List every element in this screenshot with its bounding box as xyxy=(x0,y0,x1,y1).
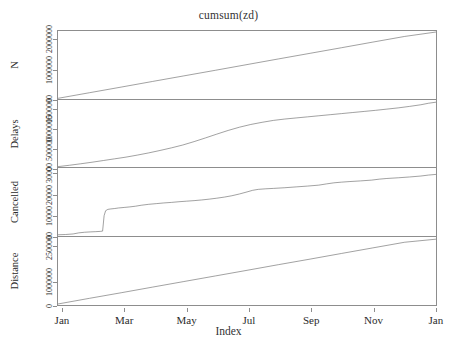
series-line-distance xyxy=(58,237,436,305)
y-tick-mark xyxy=(53,70,57,71)
x-tick-mark xyxy=(124,308,125,312)
y-tick-mark xyxy=(53,216,57,217)
y-tick-mark xyxy=(53,109,57,110)
y-tick-mark xyxy=(53,149,57,150)
y-tick-label: 1500000 xyxy=(45,95,54,123)
y-tick-label: 1000000 xyxy=(45,268,54,296)
y-tick-label: 10000 xyxy=(45,206,54,226)
y-tick-mark xyxy=(53,306,57,307)
panel-delays xyxy=(57,99,437,169)
panel-stack: 010000002000000N050000010000001500000Del… xyxy=(57,30,437,308)
y-tick-label: 20000 xyxy=(45,185,54,205)
x-tick-mark xyxy=(311,308,312,312)
y-tick-mark xyxy=(53,39,57,40)
y-tick-label: 1000000 xyxy=(45,56,54,84)
panel-cancelled xyxy=(57,167,437,237)
panel-n xyxy=(57,30,437,100)
series-line-cancelled xyxy=(58,168,436,236)
y-tick-label: 30000 xyxy=(45,163,54,183)
x-tick-mark xyxy=(187,308,188,312)
chart-title: cumsum(zd) xyxy=(0,9,457,21)
y-tick-label: 2500000 xyxy=(45,232,54,260)
series-line-n xyxy=(58,31,436,99)
y-tick-mark xyxy=(53,173,57,174)
y-tick-mark xyxy=(53,129,57,130)
panel-distance xyxy=(57,236,437,306)
x-tick-mark xyxy=(436,308,437,312)
x-tick-mark xyxy=(62,308,63,312)
series-line-delays xyxy=(58,100,436,168)
chart-canvas: cumsum(zd) 010000002000000N0500000100000… xyxy=(0,0,457,346)
x-tick-mark xyxy=(374,308,375,312)
x-axis-title: Index xyxy=(0,325,457,337)
y-tick-mark xyxy=(53,195,57,196)
y-tick-label: 0 xyxy=(45,304,54,308)
x-tick-mark xyxy=(249,308,250,312)
y-tick-label: 2000000 xyxy=(45,25,54,53)
y-tick-mark xyxy=(53,282,57,283)
y-tick-mark xyxy=(53,246,57,247)
